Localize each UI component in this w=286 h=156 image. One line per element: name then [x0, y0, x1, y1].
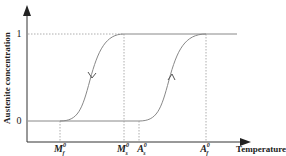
- ms-sub: s: [124, 150, 128, 156]
- as-sup: 0: [144, 142, 147, 148]
- heating-curve: [139, 34, 206, 121]
- ms-sup: 0: [126, 142, 129, 148]
- y-tick-1: 1: [17, 28, 22, 39]
- x-marker-af: A0f: [199, 142, 210, 156]
- mf-sup: 0: [63, 142, 66, 148]
- af-sup: 0: [207, 142, 210, 148]
- x-marker-ms: M0s: [116, 142, 129, 156]
- af-sub: f: [206, 150, 209, 156]
- x-marker-mf: M0f: [53, 142, 66, 156]
- x-axis-title: Temperature: [236, 144, 286, 154]
- svg-text:M0f: M0f: [53, 142, 66, 156]
- svg-text:A0s: A0s: [136, 142, 147, 156]
- y-tick-0: 0: [17, 115, 22, 126]
- mf-sub: f: [62, 150, 65, 156]
- svg-text:M0s: M0s: [116, 142, 129, 156]
- as-sub: s: [142, 150, 146, 156]
- y-axis-arrow-icon: [23, 5, 31, 16]
- hysteresis-diagram: 1 0 Austenite concentration M0f M0s A0s …: [0, 0, 286, 156]
- x-marker-as: A0s: [136, 142, 147, 156]
- svg-text:A0f: A0f: [199, 142, 210, 156]
- y-axis-title: Austenite concentration: [2, 32, 12, 124]
- heating-arrow-icon: [168, 74, 175, 80]
